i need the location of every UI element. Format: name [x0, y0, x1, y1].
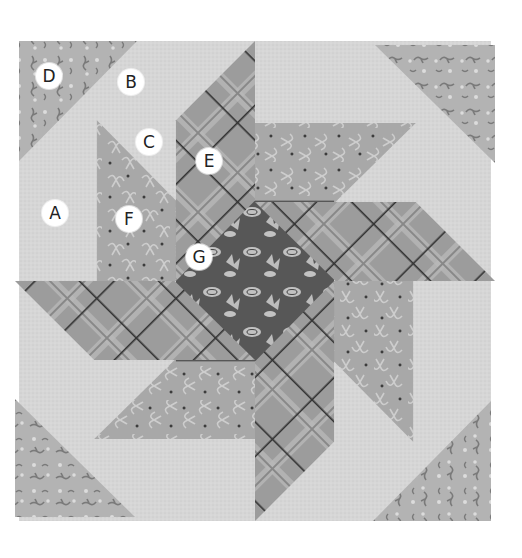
quilt-block — [0, 0, 522, 558]
label-d: D — [36, 63, 62, 89]
label-f: F — [116, 206, 142, 232]
label-b: B — [118, 69, 144, 95]
label-g: G — [186, 244, 212, 270]
label-a: A — [42, 200, 68, 226]
label-c: C — [136, 129, 162, 155]
label-e: E — [196, 148, 222, 174]
